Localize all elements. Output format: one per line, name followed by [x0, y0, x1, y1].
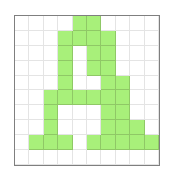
grid-cell-r8-c1[interactable]: [29, 135, 43, 150]
grid-cell-r7-c4[interactable]: [73, 120, 87, 135]
grid-cell-r9-c4[interactable]: [73, 150, 87, 165]
grid-cell-r0-c9[interactable]: [145, 16, 159, 31]
grid-cell-r7-c8[interactable]: [130, 120, 144, 135]
grid-cell-r0-c4[interactable]: [73, 16, 87, 31]
grid-cell-r5-c4[interactable]: [73, 90, 87, 105]
grid-cell-r2-c3[interactable]: [58, 46, 72, 61]
grid-cell-r0-c1[interactable]: [29, 16, 43, 31]
grid-cell-r7-c9[interactable]: [145, 120, 159, 135]
grid-cell-r0-c5[interactable]: [87, 16, 101, 31]
grid-cell-r9-c3[interactable]: [58, 150, 72, 165]
grid-cell-r3-c9[interactable]: [145, 61, 159, 76]
grid-cell-r2-c5[interactable]: [87, 46, 101, 61]
grid-cell-r4-c9[interactable]: [145, 76, 159, 91]
grid-cell-r7-c2[interactable]: [44, 120, 58, 135]
grid-cell-r6-c6[interactable]: [101, 105, 115, 120]
grid-cell-r6-c1[interactable]: [29, 105, 43, 120]
grid-cell-r8-c3[interactable]: [58, 135, 72, 150]
grid-cell-r2-c7[interactable]: [116, 46, 130, 61]
grid-cell-r8-c9[interactable]: [145, 135, 159, 150]
grid-cell-r5-c9[interactable]: [145, 90, 159, 105]
grid-cell-r9-c6[interactable]: [101, 150, 115, 165]
grid-cell-r1-c9[interactable]: [145, 31, 159, 46]
grid-cell-r6-c4[interactable]: [73, 105, 87, 120]
grid-cell-r9-c5[interactable]: [87, 150, 101, 165]
grid-cell-r4-c3[interactable]: [58, 76, 72, 91]
grid-cell-r8-c8[interactable]: [130, 135, 144, 150]
grid-cell-r9-c8[interactable]: [130, 150, 144, 165]
grid-cell-r5-c6[interactable]: [101, 90, 115, 105]
grid-cell-r9-c9[interactable]: [145, 150, 159, 165]
grid-cell-r1-c5[interactable]: [87, 31, 101, 46]
grid-cell-r6-c5[interactable]: [87, 105, 101, 120]
grid-cell-r2-c0[interactable]: [15, 46, 29, 61]
grid-cell-r2-c1[interactable]: [29, 46, 43, 61]
grid-cell-r7-c7[interactable]: [116, 120, 130, 135]
grid-cell-r9-c2[interactable]: [44, 150, 58, 165]
grid-cell-r3-c8[interactable]: [130, 61, 144, 76]
grid-cell-r3-c6[interactable]: [101, 61, 115, 76]
grid-cell-r3-c2[interactable]: [44, 61, 58, 76]
grid-cell-r4-c7[interactable]: [116, 76, 130, 91]
grid-cell-r4-c5[interactable]: [87, 76, 101, 91]
grid-cell-r1-c2[interactable]: [44, 31, 58, 46]
grid-cell-r7-c5[interactable]: [87, 120, 101, 135]
grid-cell-r5-c0[interactable]: [15, 90, 29, 105]
grid-cell-r6-c3[interactable]: [58, 105, 72, 120]
grid-cell-r3-c7[interactable]: [116, 61, 130, 76]
grid-cell-r9-c7[interactable]: [116, 150, 130, 165]
grid-cell-r7-c6[interactable]: [101, 120, 115, 135]
grid-cell-r8-c0[interactable]: [15, 135, 29, 150]
grid-cell-r6-c2[interactable]: [44, 105, 58, 120]
grid-cell-r5-c3[interactable]: [58, 90, 72, 105]
grid-cell-r6-c0[interactable]: [15, 105, 29, 120]
grid-cell-r4-c6[interactable]: [101, 76, 115, 91]
grid-cell-r2-c4[interactable]: [73, 46, 87, 61]
grid-cell-r8-c7[interactable]: [116, 135, 130, 150]
grid-cell-r9-c0[interactable]: [15, 150, 29, 165]
grid-cell-r8-c4[interactable]: [73, 135, 87, 150]
grid-cell-r3-c4[interactable]: [73, 61, 87, 76]
grid-cell-r1-c7[interactable]: [116, 31, 130, 46]
grid-cell-r2-c9[interactable]: [145, 46, 159, 61]
grid-cell-r9-c1[interactable]: [29, 150, 43, 165]
grid-cell-r5-c2[interactable]: [44, 90, 58, 105]
grid-cell-r8-c5[interactable]: [87, 135, 101, 150]
grid-cell-r3-c1[interactable]: [29, 61, 43, 76]
grid-cell-r0-c6[interactable]: [101, 16, 115, 31]
grid-cell-r2-c8[interactable]: [130, 46, 144, 61]
grid-cell-r1-c3[interactable]: [58, 31, 72, 46]
grid-cell-r6-c8[interactable]: [130, 105, 144, 120]
grid-cell-r6-c7[interactable]: [116, 105, 130, 120]
grid-cell-r0-c8[interactable]: [130, 16, 144, 31]
grid-cell-r3-c5[interactable]: [87, 61, 101, 76]
grid-cell-r7-c1[interactable]: [29, 120, 43, 135]
grid-cell-r1-c1[interactable]: [29, 31, 43, 46]
grid-cell-r4-c2[interactable]: [44, 76, 58, 91]
grid-cell-r1-c0[interactable]: [15, 31, 29, 46]
grid-cell-r3-c0[interactable]: [15, 61, 29, 76]
grid-cell-r8-c2[interactable]: [44, 135, 58, 150]
grid-cell-r2-c2[interactable]: [44, 46, 58, 61]
grid-cell-r4-c4[interactable]: [73, 76, 87, 91]
grid-cell-r0-c3[interactable]: [58, 16, 72, 31]
grid-cell-r5-c1[interactable]: [29, 90, 43, 105]
grid-cell-r1-c4[interactable]: [73, 31, 87, 46]
grid-cell-r1-c8[interactable]: [130, 31, 144, 46]
grid-cell-r5-c5[interactable]: [87, 90, 101, 105]
grid-cell-r8-c6[interactable]: [101, 135, 115, 150]
grid-cell-r5-c7[interactable]: [116, 90, 130, 105]
grid-cell-r7-c0[interactable]: [15, 120, 29, 135]
grid-cell-r4-c0[interactable]: [15, 76, 29, 91]
grid-cell-r4-c8[interactable]: [130, 76, 144, 91]
grid-cell-r4-c1[interactable]: [29, 76, 43, 91]
grid-cell-r2-c6[interactable]: [101, 46, 115, 61]
grid-cell-r0-c0[interactable]: [15, 16, 29, 31]
grid-cell-r5-c8[interactable]: [130, 90, 144, 105]
grid-cell-r6-c9[interactable]: [145, 105, 159, 120]
grid-cell-r1-c6[interactable]: [101, 31, 115, 46]
grid-cell-r0-c2[interactable]: [44, 16, 58, 31]
grid-cell-r3-c3[interactable]: [58, 61, 72, 76]
grid-cell-r7-c3[interactable]: [58, 120, 72, 135]
grid-cell-r0-c7[interactable]: [116, 16, 130, 31]
